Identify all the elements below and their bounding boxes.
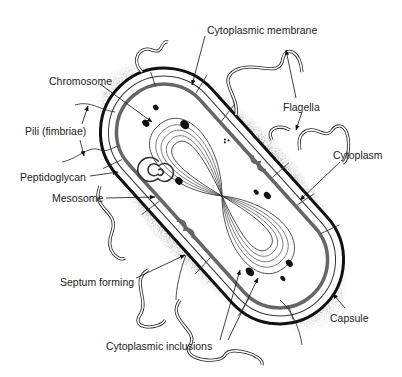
bacterial-cell-diagram: Cytoplasmic membrane Chromosome Flagella…	[0, 0, 402, 377]
label-capsule: Capsule	[330, 312, 369, 324]
leader-flagella-down	[296, 112, 302, 130]
leader-flagella-up	[286, 50, 296, 98]
label-chromosome: Chromosome	[49, 75, 112, 87]
label-septum-forming: Septum forming	[60, 276, 134, 288]
label-peptidoglycan: Peptidoglycan	[20, 171, 86, 183]
label-flagella: Flagella	[283, 101, 320, 113]
label-cytoplasmic-inclusions: Cytoplasmic inclusions	[106, 340, 212, 352]
label-cytoplasm: Cytoplasm	[333, 149, 383, 161]
leader-septum	[136, 255, 185, 278]
label-cytoplasmic-membrane: Cytoplasmic membrane	[207, 24, 317, 36]
label-mesosome: Mesosome	[52, 192, 104, 204]
label-pili: Pili (fimbriae)	[25, 125, 86, 137]
